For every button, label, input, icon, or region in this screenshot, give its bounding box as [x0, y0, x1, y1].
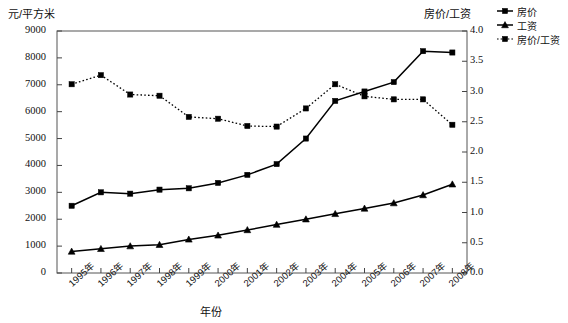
x-axis-title: 年份 [200, 303, 222, 319]
y-axis-right-tick-label: 2.5 [470, 115, 504, 126]
legend-item: 房价 [496, 4, 568, 18]
chart-container: 元/平方米 房价/工资 年份 0100020003000400050006000… [0, 0, 568, 323]
y-axis-left-tick-label: 3000 [2, 185, 46, 196]
chart-legend: 房价工资房价/工资 [496, 4, 568, 46]
y-axis-left-tick-label: 5000 [2, 132, 46, 143]
y-axis-right-title: 房价/工资 [424, 5, 471, 21]
legend-swatch-icon [496, 5, 514, 17]
y-axis-right-tick-label: 1.5 [470, 175, 504, 186]
legend-item: 房价/工资 [496, 32, 568, 46]
series-3 [69, 73, 455, 130]
y-axis-left-tick-label: 8000 [2, 51, 46, 62]
legend-item-label: 工资 [517, 18, 537, 33]
legend-item-label: 房价/工资 [517, 32, 560, 47]
y-axis-right-tick-label: 0.5 [470, 236, 504, 247]
legend-swatch-icon [496, 33, 514, 45]
y-axis-left-tick-label: 0 [2, 266, 46, 277]
y-axis-right-tick-label: 1.0 [470, 206, 504, 217]
plot-frame [57, 31, 467, 273]
y-axis-left-tick-label: 7000 [2, 78, 46, 89]
legend-swatch-icon [496, 19, 514, 31]
series-2 [68, 181, 456, 254]
y-axis-left-title: 元/平方米 [8, 5, 55, 21]
y-axis-right-tick-label: 3.0 [470, 85, 504, 96]
y-axis-right-tick-label: 2.0 [470, 145, 504, 156]
series-1 [69, 49, 455, 209]
y-axis-right-tick-label: 3.5 [470, 54, 504, 65]
y-axis-left-tick-label: 4000 [2, 158, 46, 169]
legend-item: 工资 [496, 18, 568, 32]
y-axis-left-tick-label: 2000 [2, 212, 46, 223]
y-axis-left-tick-label: 1000 [2, 239, 46, 250]
legend-item-label: 房价 [517, 4, 537, 19]
y-axis-left-tick-label: 6000 [2, 105, 46, 116]
y-axis-left-tick-label: 9000 [2, 24, 46, 35]
